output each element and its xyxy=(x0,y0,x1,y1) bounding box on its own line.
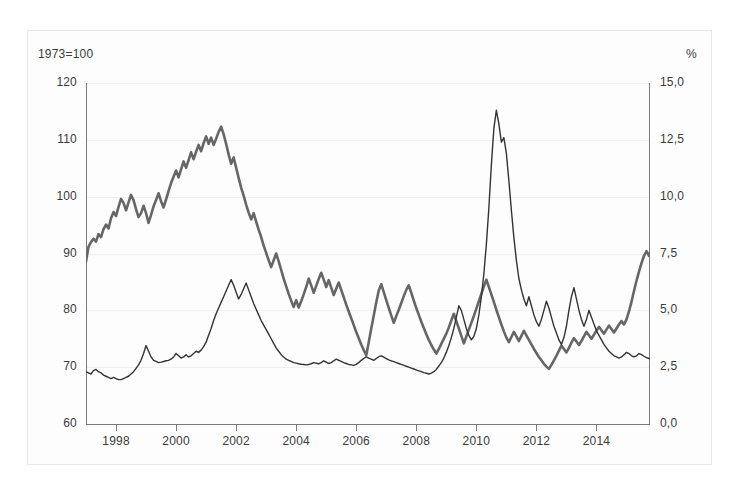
right-axis-tick-label: 15,0 xyxy=(660,75,684,89)
x-axis-tick-label: 2000 xyxy=(162,434,190,448)
x-axis-tick-mark xyxy=(356,425,357,431)
x-axis-tick-label: 2008 xyxy=(403,434,431,448)
x-axis-tick-label: 2014 xyxy=(583,434,611,448)
right-axis-caption: % xyxy=(686,47,697,61)
left-axis-tick-label: 60 xyxy=(63,416,77,430)
right-axis-tick-label: 2,5 xyxy=(660,359,677,373)
left-axis-tick-label: 70 xyxy=(63,359,77,373)
x-axis-tick-label: 2006 xyxy=(342,434,370,448)
left-axis-caption: 1973=100 xyxy=(38,47,93,61)
left-axis-tick-label: 110 xyxy=(57,132,77,146)
x-axis-tick-mark xyxy=(296,425,297,431)
right-axis-tick-label: 0,0 xyxy=(660,416,677,430)
x-axis-tick-mark xyxy=(536,425,537,431)
left-axis-tick-label: 120 xyxy=(56,75,77,89)
chart-screenshot: 1973=100 % 12011010090807060 15,012,510,… xyxy=(0,0,739,490)
x-axis-tick-label: 2012 xyxy=(523,434,551,448)
right-axis-tick-label: 10,0 xyxy=(660,189,684,203)
x-axis-tick-label: 1998 xyxy=(102,434,130,448)
x-axis-tick-mark xyxy=(476,425,477,431)
series-layer xyxy=(86,83,650,425)
x-axis-tick-label: 2004 xyxy=(282,434,310,448)
right-axis-tick-label: 12,5 xyxy=(660,132,684,146)
left-axis-tick-label: 80 xyxy=(63,302,77,316)
x-axis-tick-label: 2010 xyxy=(463,434,491,448)
left-axis-tick-label: 90 xyxy=(63,246,77,260)
x-axis-tick-mark xyxy=(176,425,177,431)
x-axis-tick-label: 2002 xyxy=(222,434,250,448)
right-axis-tick-label: 5,0 xyxy=(660,302,677,316)
x-axis-tick-mark xyxy=(236,425,237,431)
left-axis-tick-label: 100 xyxy=(56,189,77,203)
right-axis-tick-label: 7,5 xyxy=(660,246,677,260)
x-axis-tick-mark xyxy=(596,425,597,431)
x-axis-tick-mark xyxy=(116,425,117,431)
line-series-svg xyxy=(86,83,650,425)
x-axis-tick-mark xyxy=(416,425,417,431)
plot-area: 12011010090807060 15,012,510,07,55,02,50… xyxy=(86,83,650,425)
